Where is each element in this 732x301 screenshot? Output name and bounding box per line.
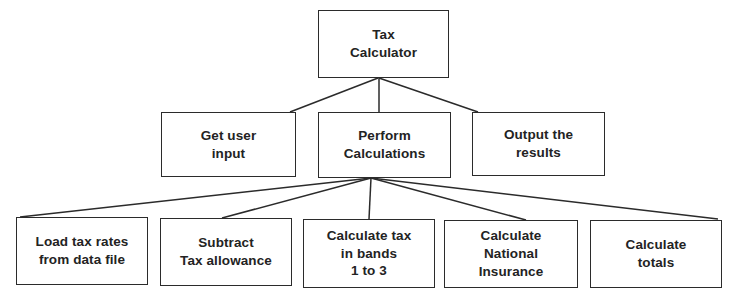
- node-label: Calculate tax in bands 1 to 3: [323, 227, 416, 280]
- node-get-user-input[interactable]: Get user input: [161, 112, 296, 177]
- connector-perform-to-load-tax-rates: [20, 178, 371, 217]
- connector-perform-to-calculate-totals: [371, 178, 718, 219]
- node-label: Tax Calculator: [346, 26, 421, 62]
- node-tax-calculator[interactable]: Tax Calculator: [318, 10, 449, 78]
- node-perform-calculations[interactable]: Perform Calculations: [318, 112, 451, 178]
- node-label: Output the results: [500, 126, 577, 162]
- connector-perform-to-calculate-tax-in-bands: [369, 178, 371, 219]
- connector-perform-to-subtract-tax-allowance: [222, 178, 371, 218]
- node-load-tax-rates[interactable]: Load tax rates from data file: [16, 217, 148, 285]
- node-label: Calculate National Insurance: [475, 227, 548, 280]
- node-subtract-tax-allowance[interactable]: Subtract Tax allowance: [160, 218, 292, 286]
- node-label: Get user input: [197, 127, 261, 163]
- node-label: Perform Calculations: [340, 127, 429, 163]
- node-calculate-national-insurance[interactable]: Calculate National Insurance: [444, 220, 578, 288]
- hierarchy-diagram: Tax Calculator Get user input Perform Ca…: [0, 0, 732, 301]
- node-calculate-totals[interactable]: Calculate totals: [590, 220, 722, 288]
- node-calculate-tax-in-bands[interactable]: Calculate tax in bands 1 to 3: [303, 219, 435, 288]
- connector-root-to-output-the-results: [379, 78, 478, 112]
- node-label: Calculate totals: [622, 236, 691, 272]
- connector-root-to-get-user-input: [290, 78, 378, 112]
- node-label: Subtract Tax allowance: [176, 234, 276, 270]
- node-output-the-results[interactable]: Output the results: [472, 112, 605, 176]
- connector-perform-to-calculate-national-insurance: [371, 178, 526, 220]
- node-label: Load tax rates from data file: [32, 233, 133, 269]
